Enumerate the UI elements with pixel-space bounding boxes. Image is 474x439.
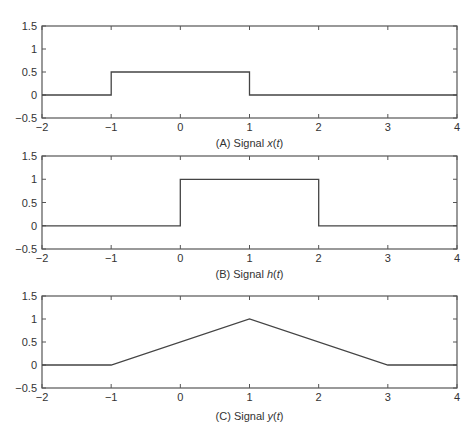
- x-tick-label: −2: [36, 252, 49, 264]
- figure: −2−101234−0.500.511.5(A) Signal x(t) −2−…: [0, 0, 474, 439]
- chart-panel-b: −2−101234−0.500.511.5(B) Signal h(t): [15, 150, 460, 280]
- chart-panel-c: −2−101234−0.500.511.5(C) Signal y(t): [15, 290, 460, 422]
- y-tick-label: 0.5: [22, 66, 37, 78]
- caption-paren-close: ): [279, 137, 283, 149]
- caption-paren-close: ): [280, 268, 284, 280]
- x-tick-label: 0: [177, 121, 183, 133]
- caption-paren-close: ): [280, 410, 284, 422]
- y-tick-label: 0: [31, 89, 37, 101]
- x-tick-label: −2: [36, 121, 49, 133]
- signal-line-a: [42, 72, 457, 95]
- y-tick-label: 0: [31, 359, 37, 371]
- x-tick-label: 1: [246, 391, 252, 403]
- signal-line-c: [42, 319, 457, 365]
- x-tick-label: 4: [454, 252, 460, 264]
- y-tick-label: 1.5: [22, 20, 37, 32]
- x-tick-label: 2: [316, 121, 322, 133]
- signal-line-b: [42, 179, 457, 226]
- x-tick-label: 3: [385, 121, 391, 133]
- y-tick-label: 1: [31, 43, 37, 55]
- y-tick-label: −0.5: [15, 112, 37, 124]
- x-tick-label: 4: [454, 391, 460, 403]
- x-tick-label: −2: [36, 391, 49, 403]
- y-tick-label: −0.5: [15, 382, 37, 394]
- panel-caption-a: (A) Signal x(t): [216, 137, 283, 149]
- panel-caption-b: (B) Signal h(t): [216, 268, 284, 280]
- y-tick-label: 0.5: [22, 336, 37, 348]
- x-tick-label: −1: [105, 391, 118, 403]
- y-tick-label: 1.5: [22, 150, 37, 162]
- x-tick-label: 2: [316, 252, 322, 264]
- y-tick-label: 0: [31, 220, 37, 232]
- chart-panel-a: −2−101234−0.500.511.5(A) Signal x(t): [15, 20, 460, 149]
- plot-area-frame: [42, 296, 457, 388]
- x-tick-label: −1: [105, 121, 118, 133]
- panel-caption-c: (C) Signal y(t): [216, 410, 284, 422]
- y-tick-label: −0.5: [15, 243, 37, 255]
- caption-prefix: (B) Signal: [216, 268, 267, 280]
- x-tick-label: 1: [246, 252, 252, 264]
- caption-prefix: (C) Signal: [216, 410, 268, 422]
- y-tick-label: 1: [31, 313, 37, 325]
- x-tick-label: 2: [316, 391, 322, 403]
- y-tick-label: 1.5: [22, 290, 37, 302]
- x-tick-label: 3: [385, 391, 391, 403]
- x-tick-label: −1: [105, 252, 118, 264]
- x-tick-label: 4: [454, 121, 460, 133]
- caption-prefix: (A) Signal: [216, 137, 267, 149]
- x-tick-label: 1: [246, 121, 252, 133]
- y-tick-label: 0.5: [22, 197, 37, 209]
- x-tick-label: 0: [177, 252, 183, 264]
- y-tick-label: 1: [31, 173, 37, 185]
- plot-area-frame: [42, 156, 457, 249]
- x-tick-label: 0: [177, 391, 183, 403]
- x-tick-label: 3: [385, 252, 391, 264]
